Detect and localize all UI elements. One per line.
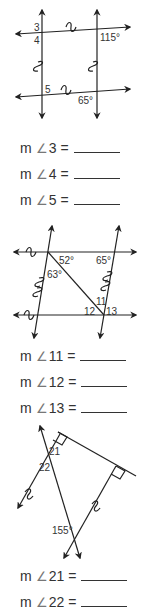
parallel-mark-top bbox=[66, 23, 76, 32]
parallel-mark-left bbox=[34, 61, 43, 71]
angle-symbol: ∠ bbox=[36, 191, 48, 211]
line-perpendicular bbox=[58, 432, 136, 476]
question-angle-22: m ∠ 22 = bbox=[20, 592, 127, 612]
angle-symbol: ∠ bbox=[36, 373, 48, 393]
angle-label-3: 3 bbox=[34, 22, 40, 33]
equals-sign: = bbox=[68, 566, 76, 586]
measure-prefix: m bbox=[20, 398, 32, 418]
answer-blank-21[interactable] bbox=[81, 566, 127, 581]
angle-symbol: ∠ bbox=[36, 399, 48, 419]
angle-number: 5 bbox=[49, 190, 57, 210]
answer-blank-5[interactable] bbox=[74, 190, 120, 205]
angle-label-65: 65° bbox=[78, 95, 93, 106]
angle-label-13: 13 bbox=[106, 306, 118, 317]
figure-perpendicular-transversal: 21 22 155° bbox=[0, 420, 144, 560]
angle-number: 13 bbox=[49, 398, 65, 418]
measure-prefix: m bbox=[20, 346, 32, 366]
angle-symbol: ∠ bbox=[36, 567, 48, 587]
answer-blank-22[interactable] bbox=[81, 592, 127, 607]
question-angle-3: m ∠ 3 = bbox=[20, 138, 120, 158]
measure-prefix: m bbox=[20, 566, 32, 586]
answer-blank-13[interactable] bbox=[81, 398, 127, 413]
question-angle-5: m ∠ 5 = bbox=[20, 190, 120, 210]
line-parallel-right bbox=[64, 466, 116, 558]
equals-sign: = bbox=[68, 398, 76, 418]
measure-prefix: m bbox=[20, 164, 32, 184]
angle-label-155: 155° bbox=[52, 525, 73, 536]
angle-label-5: 5 bbox=[45, 84, 51, 95]
angle-number: 11 bbox=[49, 346, 64, 366]
question-angle-12: m ∠ 12 = bbox=[20, 372, 127, 392]
answer-blank-12[interactable] bbox=[81, 372, 127, 387]
measure-prefix: m bbox=[20, 138, 32, 158]
angle-symbol: ∠ bbox=[36, 347, 48, 367]
angle-label-65: 65° bbox=[96, 255, 111, 266]
question-angle-13: m ∠ 13 = bbox=[20, 398, 127, 418]
answer-blank-11[interactable] bbox=[80, 346, 126, 361]
figure-parallel-lines-1: 3 4 5 115° 65° bbox=[0, 0, 144, 120]
question-angle-21: m ∠ 21 = bbox=[20, 566, 127, 586]
line-bottom bbox=[16, 89, 130, 97]
angle-label-115: 115° bbox=[100, 32, 120, 43]
angle-symbol: ∠ bbox=[36, 593, 48, 613]
equals-sign: = bbox=[60, 164, 68, 184]
equals-sign: = bbox=[67, 346, 75, 366]
angle-label-22: 22 bbox=[39, 462, 51, 473]
angle-label-12: 12 bbox=[84, 306, 96, 317]
angle-symbol: ∠ bbox=[36, 139, 48, 159]
angle-label-21: 21 bbox=[49, 446, 61, 457]
angle-number: 4 bbox=[49, 164, 57, 184]
angle-label-52: 52° bbox=[59, 255, 74, 266]
line-left bbox=[34, 226, 52, 338]
angle-number: 22 bbox=[49, 592, 65, 612]
question-angle-11: m ∠ 11 = bbox=[20, 346, 126, 366]
angle-label-63: 63° bbox=[47, 269, 62, 280]
figure-parallelogram-diagonal: 52° 65° 63° 11 12 13 bbox=[0, 222, 144, 340]
answer-blank-4[interactable] bbox=[74, 164, 120, 179]
angle-number: 12 bbox=[49, 372, 65, 392]
question-angle-4: m ∠ 4 = bbox=[20, 164, 120, 184]
measure-prefix: m bbox=[20, 190, 32, 210]
equals-sign: = bbox=[60, 190, 68, 210]
parallel-mark-right bbox=[89, 61, 98, 71]
equals-sign: = bbox=[68, 372, 76, 392]
answer-blank-3[interactable] bbox=[74, 138, 120, 153]
measure-prefix: m bbox=[20, 372, 32, 392]
equals-sign: = bbox=[60, 138, 68, 158]
angle-number: 3 bbox=[49, 138, 57, 158]
angle-symbol: ∠ bbox=[36, 165, 48, 185]
equals-sign: = bbox=[68, 592, 76, 612]
angle-number: 21 bbox=[49, 566, 65, 586]
measure-prefix: m bbox=[20, 592, 32, 612]
angle-label-4: 4 bbox=[34, 35, 40, 46]
